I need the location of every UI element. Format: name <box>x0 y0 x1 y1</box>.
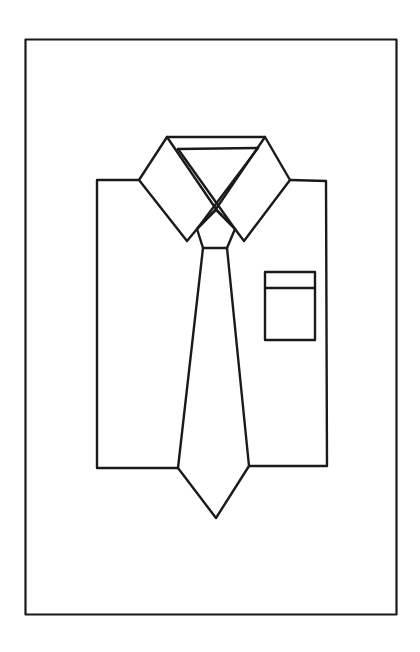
collar-inner-lines <box>178 148 258 229</box>
collar-left <box>139 137 216 241</box>
shirt-body <box>97 180 327 468</box>
collar-band <box>167 137 265 149</box>
tie <box>178 248 249 518</box>
tie-knot <box>197 210 235 248</box>
pocket <box>265 272 315 340</box>
shirt-tie-drawing <box>0 0 420 652</box>
frame-border <box>26 40 397 615</box>
shirt-left-edge <box>97 180 178 468</box>
